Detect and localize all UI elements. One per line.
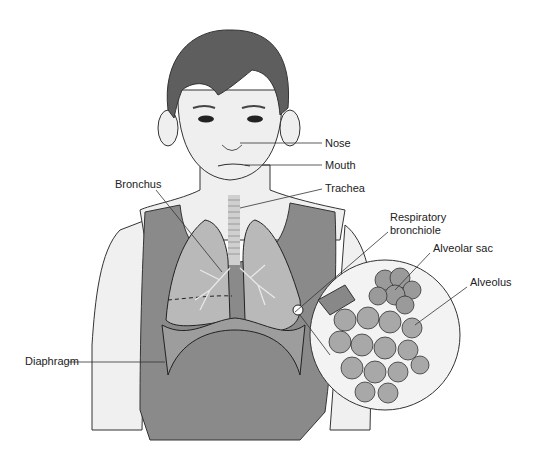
label-alveolus: Alveolus bbox=[470, 276, 512, 289]
trachea-shape bbox=[228, 195, 240, 265]
label-diaphragm: Diaphragm bbox=[25, 355, 79, 368]
label-respiratory-bronchiole-1: Respiratory bbox=[390, 211, 446, 224]
label-trachea: Trachea bbox=[325, 182, 365, 195]
respiratory-illustration bbox=[0, 0, 536, 466]
label-mouth: Mouth bbox=[325, 159, 356, 172]
head bbox=[158, 30, 300, 180]
alveoli-magnification bbox=[310, 260, 460, 410]
label-alveolar-sac: Alveolar sac bbox=[433, 242, 493, 255]
label-bronchus: Bronchus bbox=[115, 178, 161, 191]
label-respiratory-bronchiole-2: bronchiole bbox=[390, 224, 441, 237]
label-nose: Nose bbox=[325, 137, 351, 150]
